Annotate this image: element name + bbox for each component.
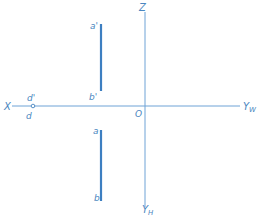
- x-axis-label: X: [3, 101, 12, 112]
- point-a-label: a: [93, 126, 99, 136]
- point-a-prime-label: a': [90, 21, 98, 31]
- point-d-marker: [31, 104, 35, 108]
- yw-axis-label: YW: [243, 101, 257, 114]
- point-b-prime-label: b': [89, 92, 97, 102]
- point-b-label: b: [94, 193, 100, 203]
- point-d-prime-label: d': [27, 93, 35, 103]
- origin-label: O: [135, 109, 142, 119]
- yh-axis-label: YH: [142, 204, 154, 217]
- point-d-label: d: [26, 111, 32, 121]
- projection-diagram: X YW Z YH O d' d a' b' a b: [0, 0, 260, 218]
- z-axis-label: Z: [138, 2, 147, 13]
